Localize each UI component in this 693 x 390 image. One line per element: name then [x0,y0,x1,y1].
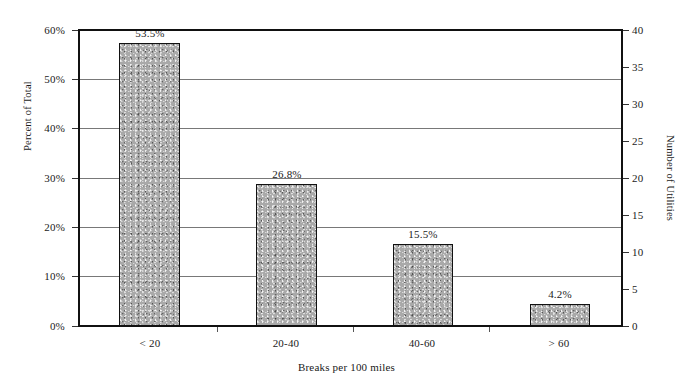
bar-value-label-40-60: 15.5% [382,228,464,240]
y-tick-label-right-30: 30 [632,99,643,110]
y-tick-right-35 [623,67,629,68]
y-tick-right-10 [623,252,629,253]
y-tick-label-right-40: 40 [632,25,643,36]
bar-value-label-gt-60: 4.2% [519,288,601,300]
bar-40-60[interactable] [393,244,453,326]
bar-value-label-20-40: 26.8% [246,168,328,180]
y-tick-label-left-30: 30% [44,173,65,184]
y-tick-label-left-60: 60% [44,25,65,36]
bar-chart-figure: 60% 50% 40% 30% 20% 10% 0% 40 35 30 25 2… [0,0,693,390]
x-tick-boundary-3 [489,327,490,332]
bar-gt-60[interactable] [530,304,590,326]
x-tick-boundary-2 [353,327,354,332]
y-tick-label-right-0: 0 [632,321,638,332]
x-category-label-4: > 60 [518,337,600,349]
y-tick-right-20 [623,178,629,179]
x-category-label-2: 20-40 [245,337,327,349]
y-tick-right-0 [623,326,629,327]
y-tick-left-40 [72,128,78,129]
y-tick-label-right-15: 15 [632,210,643,221]
y-tick-left-50 [72,79,78,80]
y-axis-left-line [78,29,80,327]
y-tick-label-left-40: 40% [44,123,65,134]
y-axis-title-right: Number of Utilities [665,135,676,221]
y-tick-right-40 [623,30,629,31]
y-tick-label-left-20: 20% [44,222,65,233]
bar-value-label-lt-20: 53.5% [109,27,191,39]
y-tick-left-30 [72,178,78,179]
x-tick-boundary-1 [217,327,218,332]
x-axis-title: Breaks per 100 miles [0,361,693,373]
y-tick-left-60 [72,30,78,31]
y-tick-right-5 [623,289,629,290]
bar-20-40[interactable] [256,184,317,326]
y-tick-left-0 [72,326,78,327]
y-tick-label-left-50: 50% [44,74,65,85]
y-axis-title-left: Percent of Total [22,135,33,151]
y-tick-right-15 [623,215,629,216]
y-tick-left-20 [72,227,78,228]
x-category-label-1: < 20 [109,337,191,349]
y-tick-label-left-10: 10% [44,271,65,282]
y-tick-right-30 [623,104,629,105]
x-category-label-3: 40-60 [381,337,463,349]
bar-lt-20[interactable] [119,43,180,326]
y-tick-label-right-10: 10 [632,247,643,258]
y-tick-left-10 [72,276,78,277]
y-tick-label-left-0: 0% [50,321,65,332]
y-tick-label-right-25: 25 [632,136,643,147]
y-tick-right-25 [623,141,629,142]
y-tick-label-right-5: 5 [632,284,638,295]
y-tick-label-right-35: 35 [632,62,643,73]
y-tick-label-right-20: 20 [632,173,643,184]
